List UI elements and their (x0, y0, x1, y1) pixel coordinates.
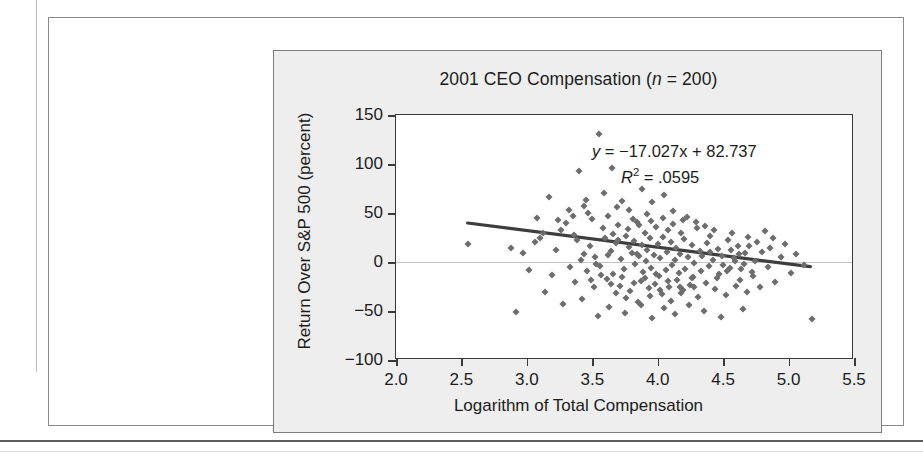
x-axis-tick (527, 358, 529, 366)
page-spine-line (36, 0, 37, 372)
y-axis-tick-label: 0 (374, 252, 383, 272)
page-bottom-rule-secondary (0, 451, 923, 452)
chart-title-main: 2001 CEO Compensation ( (440, 69, 652, 89)
regression-equation-label: y = −17.027x + 82.737 (592, 142, 757, 161)
x-axis-tick (592, 358, 594, 366)
y-axis-tick-label: 100 (355, 154, 383, 174)
x-axis-title: Logarithm of Total Compensation (274, 396, 883, 416)
x-axis-tick-label: 4.5 (711, 370, 735, 390)
x-axis-tick-label: 2.0 (384, 370, 408, 390)
x-axis-tick-label: 3.5 (580, 370, 604, 390)
y-axis-tick-label: 50 (364, 203, 383, 223)
page-bottom-rule (0, 440, 923, 442)
equation-y-variable: y (592, 142, 600, 160)
equation-body: = −17.027x + 82.737 (600, 142, 756, 160)
x-axis-tick-label: 5.0 (777, 370, 801, 390)
y-axis-tick (388, 213, 396, 215)
y-axis-tick-label: 150 (355, 105, 383, 125)
y-axis-tick-label: −50 (354, 301, 383, 321)
y-axis-tick (388, 360, 396, 362)
y-axis-tick (388, 164, 396, 166)
x-axis-tick (789, 358, 791, 366)
x-axis-tick-label: 5.5 (842, 370, 866, 390)
y-axis-tick (388, 262, 396, 264)
chart-title-n-variable: n (652, 69, 662, 89)
r-squared-value: = .0595 (639, 168, 699, 186)
figure-outer-frame: 2001 CEO Compensation (n = 200) Return O… (48, 17, 904, 426)
r-squared-symbol: R (621, 168, 633, 186)
x-axis-tick-label: 2.5 (450, 370, 474, 390)
x-axis-tick-label: 3.0 (515, 370, 539, 390)
x-axis-tick (658, 358, 660, 366)
y-axis-tick (388, 115, 396, 117)
y-axis-tick-label: −100 (345, 350, 383, 370)
x-axis-tick (396, 358, 398, 366)
y-axis-tick (388, 311, 396, 313)
r-squared-label: R2 = .0595 (621, 166, 699, 187)
x-axis-tick-label: 4.0 (646, 370, 670, 390)
x-axis-tick (723, 358, 725, 366)
y-axis-title: Return Over S&P 500 (percent) (295, 106, 315, 356)
chart-title-n-value: = 200) (662, 69, 718, 89)
chart-title: 2001 CEO Compensation (n = 200) (274, 69, 883, 90)
x-axis-tick (854, 358, 856, 366)
plot-area: 150100500−50−100 2.02.53.03.54.04.55.05.… (395, 114, 853, 359)
x-axis-tick (461, 358, 463, 366)
chart-panel: 2001 CEO Compensation (n = 200) Return O… (273, 50, 882, 433)
